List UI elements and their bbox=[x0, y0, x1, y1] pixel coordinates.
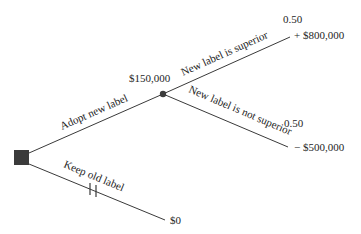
adopt-branch-line bbox=[29, 94, 163, 153]
not-superior-branch-label: New label is not superior bbox=[187, 83, 294, 137]
adopt-branch-label: Adopt new label bbox=[58, 92, 129, 132]
chance-node-icon bbox=[160, 91, 166, 97]
decision-tree: $150,000 Adopt new label New label is su… bbox=[0, 0, 361, 234]
superior-probability: 0.50 bbox=[283, 13, 303, 25]
keep-branch-label: Keep old label bbox=[62, 158, 126, 194]
chance-node-value: $150,000 bbox=[129, 72, 171, 84]
not-superior-probability: 0.50 bbox=[284, 117, 304, 129]
not-superior-payoff: − $500,000 bbox=[294, 141, 345, 153]
decision-node-icon bbox=[14, 150, 29, 165]
superior-branch-label: New label is superior bbox=[179, 28, 270, 78]
keep-payoff: $0 bbox=[170, 214, 182, 226]
superior-payoff: + $800,000 bbox=[294, 29, 345, 41]
